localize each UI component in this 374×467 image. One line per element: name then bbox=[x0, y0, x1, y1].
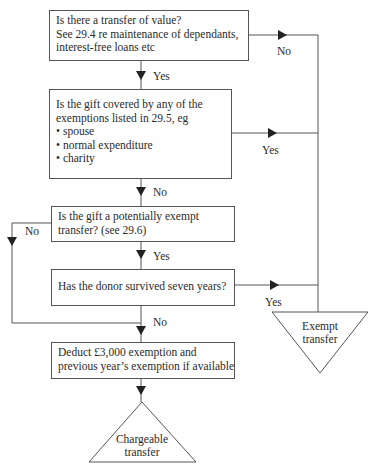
node-exempt-transfer: Exempt transfer bbox=[295, 320, 345, 346]
arrow-deduct bbox=[136, 386, 146, 395]
node-text: Is there a transfer of value? bbox=[56, 14, 242, 28]
bullet-item: • spouse bbox=[56, 125, 225, 139]
node-text: Is the gift covered by any of the bbox=[56, 98, 225, 112]
bullet-text: spouse bbox=[63, 125, 94, 137]
node-chargeable-transfer: Chargeable transfer bbox=[107, 433, 177, 459]
edge-label-seven-yes: Yes bbox=[265, 296, 282, 309]
bullet-text: normal expenditure bbox=[63, 139, 153, 151]
node-text: Has the donor survived seven years? bbox=[58, 280, 228, 294]
edge-label-transfer-yes: Yes bbox=[153, 70, 170, 83]
flowchart-canvas: Is there a transfer of value? See 29.4 r… bbox=[0, 0, 374, 467]
node-text: Deduct £3,000 exemption and bbox=[58, 346, 228, 360]
node-deduct-exemption: Deduct £3,000 exemption and previous yea… bbox=[51, 342, 235, 379]
node-text: exemptions listed in 29.5, eg bbox=[56, 112, 225, 126]
bullet-item: • charity bbox=[56, 152, 225, 166]
edge-label-exemptions-no: No bbox=[153, 186, 167, 199]
node-potentially-exempt: Is the gift a potentially exempt transfe… bbox=[51, 206, 235, 242]
arrow-pet-yes bbox=[136, 250, 146, 259]
arrow-pet-no bbox=[7, 237, 17, 246]
node-text: See 29.4 re maintenance of dependants, bbox=[56, 28, 242, 42]
arrow-exemptions-yes bbox=[268, 128, 277, 138]
edge-label-exemptions-yes: Yes bbox=[262, 144, 279, 157]
arrow-seven-no bbox=[136, 326, 146, 335]
edge-label-pet-yes: Yes bbox=[153, 250, 170, 263]
bullet-text: charity bbox=[63, 152, 95, 164]
node-text: interest-free loans etc bbox=[56, 41, 242, 55]
node-text: Exempt bbox=[295, 320, 345, 333]
node-text: transfer bbox=[107, 446, 177, 459]
node-text: previous year’s exemption if available bbox=[58, 360, 228, 374]
node-text: transfer bbox=[295, 333, 345, 346]
arrow-exemptions-no bbox=[136, 187, 146, 196]
bullet-item: • normal expenditure bbox=[56, 139, 225, 153]
edge-label-pet-no: No bbox=[25, 225, 39, 238]
node-text: Is the gift a potentially exempt bbox=[58, 210, 228, 224]
arrow-transfer-no bbox=[278, 30, 287, 40]
node-text: transfer? (see 29.6) bbox=[58, 224, 228, 238]
node-transfer-of-value: Is there a transfer of value? See 29.4 r… bbox=[49, 10, 249, 61]
node-text: Chargeable bbox=[107, 433, 177, 446]
bullet-icon: • bbox=[56, 125, 60, 137]
edge-label-transfer-no: No bbox=[277, 45, 291, 58]
bullet-icon: • bbox=[56, 152, 60, 164]
arrow-seven-yes bbox=[270, 280, 279, 290]
node-seven-years: Has the donor survived seven years? bbox=[51, 269, 235, 306]
bullet-icon: • bbox=[56, 139, 60, 151]
arrow-transfer-yes bbox=[136, 71, 146, 80]
node-exemptions: Is the gift covered by any of the exempt… bbox=[49, 89, 232, 179]
edge-label-seven-no: No bbox=[153, 316, 167, 329]
